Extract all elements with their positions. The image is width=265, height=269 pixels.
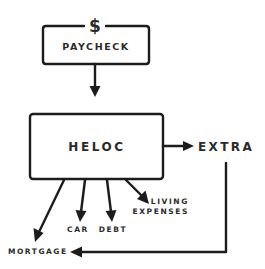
dollar-icon: $ — [89, 16, 101, 36]
extra-label: EXTRA — [198, 140, 254, 154]
arrow-heloc-to-living-expenses — [126, 180, 149, 204]
living-label: LIVING — [151, 197, 189, 206]
car-label: CAR — [67, 225, 89, 234]
arrow-heloc-to-debt — [106, 180, 117, 222]
paycheck-label: PAYCHECK — [62, 41, 130, 52]
arrow-heloc-to-car — [76, 180, 87, 222]
arrow-paycheck-to-heloc — [90, 64, 101, 97]
arrow-heloc-to-mortgage — [34, 180, 65, 242]
heloc-label: HELOC — [68, 140, 125, 154]
arrow-heloc-to-extra — [163, 141, 194, 151]
paycheck-node: $ PAYCHECK — [43, 16, 149, 64]
flow-diagram: $ PAYCHECK HELOC EXTRA CAR — [0, 0, 265, 269]
heloc-node: HELOC — [30, 114, 163, 179]
mortgage-label: MORTGAGE — [8, 247, 68, 256]
debt-label: DEBT — [99, 225, 128, 234]
expenses-label: EXPENSES — [132, 207, 189, 216]
